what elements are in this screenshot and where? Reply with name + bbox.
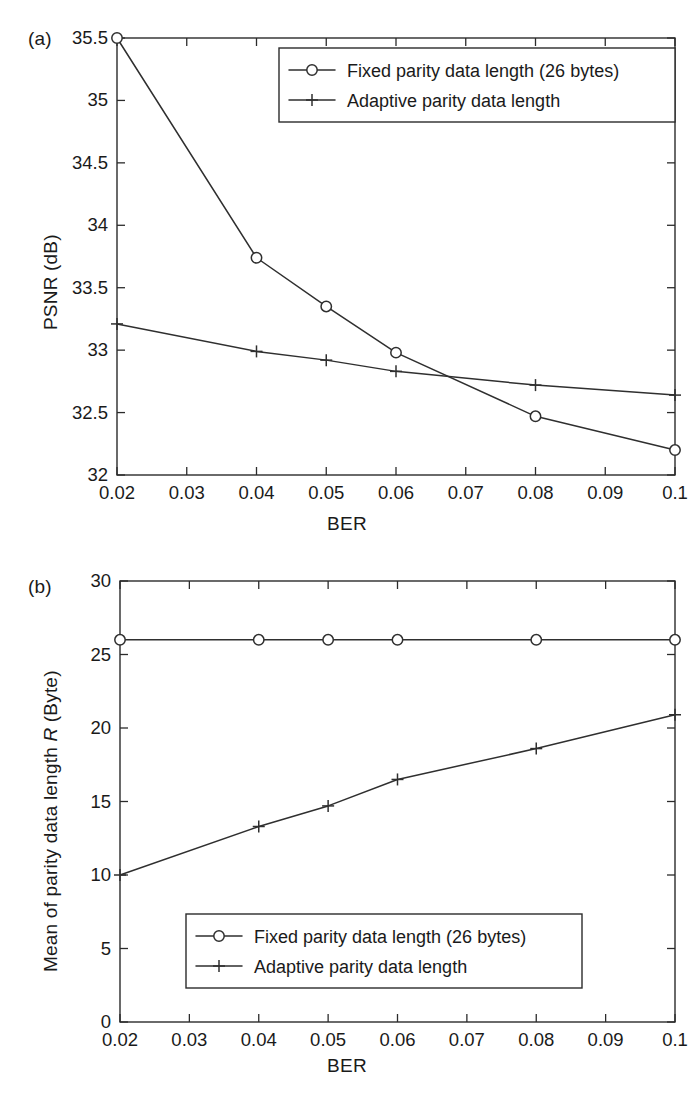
- data-point-marker-plus: [530, 379, 542, 391]
- x-tick-label: 0.09: [587, 482, 623, 503]
- legend-item-label: Adaptive parity data length: [254, 957, 467, 977]
- x-tick-label: 0.08: [517, 482, 553, 503]
- x-tick-label: 0.04: [238, 482, 274, 503]
- data-point-marker-circle: [391, 347, 401, 357]
- data-point-marker-circle: [531, 635, 541, 645]
- y-tick-label: 35.5: [72, 27, 108, 48]
- y-tick-label: 33.5: [72, 277, 108, 298]
- series-line-adaptive: [120, 715, 675, 875]
- y-tick-label: 5: [101, 938, 111, 959]
- data-point-marker-circle: [254, 635, 264, 645]
- x-tick-label: 0.09: [588, 1029, 624, 1050]
- data-point-marker-circle: [112, 33, 122, 43]
- panel-a-plot: 0.020.030.040.050.060.070.080.090.13232.…: [0, 0, 694, 510]
- series-line-adaptive: [117, 324, 675, 395]
- y-tick-label: 10: [90, 864, 111, 885]
- data-point-marker-circle: [670, 445, 680, 455]
- y-tick-label: 33: [87, 339, 108, 360]
- data-point-marker-plus: [322, 800, 334, 812]
- y-tick-label: 32: [87, 464, 108, 485]
- data-point-marker-circle: [392, 635, 402, 645]
- data-point-marker-plus: [320, 354, 332, 366]
- chart-panel-b: (b) Mean of parity data length R (Byte) …: [0, 552, 694, 1104]
- y-tick-label: 34: [87, 214, 108, 235]
- x-tick-label: 0.04: [241, 1029, 277, 1050]
- x-tick-label: 0.05: [308, 482, 344, 503]
- y-tick-label: 35: [87, 89, 108, 110]
- data-point-marker-plus: [253, 820, 265, 832]
- y-tick-label: 32.5: [72, 402, 108, 423]
- data-point-marker-plus: [669, 389, 681, 401]
- data-point-marker-circle: [670, 635, 680, 645]
- panel-a-x-axis-label: BER: [0, 513, 694, 535]
- data-point-marker-plus: [390, 365, 402, 377]
- y-tick-label: 34.5: [72, 152, 108, 173]
- panel-b-plot: 0.020.030.040.050.060.070.080.090.105101…: [0, 552, 694, 1052]
- data-point-marker-plus: [669, 709, 681, 721]
- x-tick-label: 0.03: [169, 482, 205, 503]
- data-point-marker-circle: [323, 635, 333, 645]
- x-tick-label: 0.06: [378, 482, 414, 503]
- y-tick-label: 15: [90, 791, 111, 812]
- legend-item-label: Adaptive parity data length: [347, 91, 560, 111]
- panel-b-x-axis-label: BER: [0, 1055, 694, 1077]
- data-point-marker-plus: [530, 743, 542, 755]
- legend-box: [186, 914, 582, 988]
- data-point-marker-circle: [115, 635, 125, 645]
- legend-box: [279, 48, 675, 122]
- data-point-marker-circle: [251, 253, 261, 263]
- panel-a-x-axis-label-text: BER: [327, 513, 367, 534]
- x-tick-label: 0.07: [448, 482, 484, 503]
- x-tick-label: 0.02: [102, 1029, 138, 1050]
- data-point-marker-circle: [530, 411, 540, 421]
- data-point-marker-circle: [321, 301, 331, 311]
- legend-marker-circle: [214, 931, 224, 941]
- data-point-marker-plus: [392, 773, 404, 785]
- y-tick-label: 0: [101, 1011, 111, 1032]
- x-tick-label: 0.05: [310, 1029, 346, 1050]
- data-point-marker-plus: [111, 318, 123, 330]
- chart-panel-a: (a) PSNR (dB) 0.020.030.040.050.060.070.…: [0, 0, 694, 552]
- legend-item-label: Fixed parity data length (26 bytes): [254, 927, 526, 947]
- x-tick-label: 0.02: [99, 482, 135, 503]
- x-tick-label: 0.07: [449, 1029, 485, 1050]
- legend-marker-circle: [307, 65, 317, 75]
- legend-item-label: Fixed parity data length (26 bytes): [347, 61, 619, 81]
- x-tick-label: 0.1: [662, 482, 688, 503]
- x-tick-label: 0.06: [379, 1029, 415, 1050]
- y-tick-label: 20: [90, 717, 111, 738]
- data-point-marker-plus: [251, 345, 263, 357]
- y-tick-label: 25: [90, 644, 111, 665]
- x-tick-label: 0.1: [662, 1029, 688, 1050]
- y-tick-label: 30: [90, 570, 111, 591]
- data-point-marker-plus: [114, 869, 126, 881]
- x-tick-label: 0.03: [171, 1029, 207, 1050]
- panel-b-x-axis-label-text: BER: [327, 1055, 367, 1076]
- x-tick-label: 0.08: [518, 1029, 554, 1050]
